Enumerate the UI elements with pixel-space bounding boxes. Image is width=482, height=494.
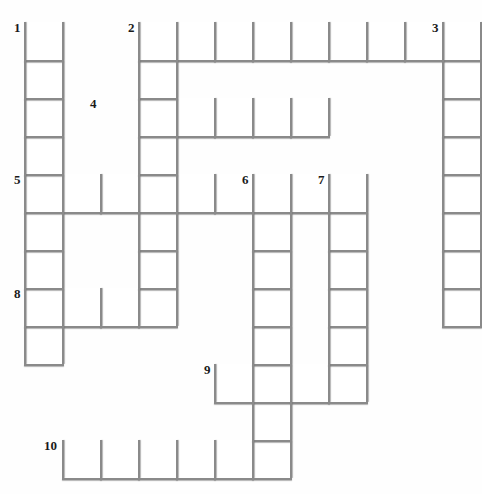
- crossword-cell[interactable]: [328, 22, 366, 60]
- crossword-cell[interactable]: [290, 22, 328, 60]
- crossword-grid[interactable]: 12345678910: [0, 0, 482, 494]
- cell-edge-bottom: [290, 402, 330, 404]
- crossword-cell[interactable]: [328, 250, 366, 288]
- crossword-cell[interactable]: [328, 212, 366, 250]
- crossword-cell[interactable]: [138, 174, 176, 212]
- crossword-cell[interactable]: [138, 60, 176, 98]
- cell-edge-bottom: [290, 212, 330, 214]
- crossword-cell[interactable]: [252, 364, 290, 402]
- cell-edge-right: [252, 364, 254, 402]
- crossword-cell[interactable]: [138, 136, 176, 174]
- crossword-cell[interactable]: [100, 174, 138, 212]
- crossword-cell[interactable]: [176, 174, 214, 212]
- crossword-cell[interactable]: [442, 22, 480, 60]
- crossword-cell[interactable]: [138, 22, 176, 60]
- cell-edge-bottom: [24, 212, 64, 214]
- cell-edge-bottom: [290, 60, 330, 62]
- crossword-cell[interactable]: [252, 174, 290, 212]
- crossword-cell[interactable]: [100, 288, 138, 326]
- cell-edge-right: [138, 440, 140, 478]
- cell-edge-bottom: [100, 212, 140, 214]
- crossword-cell[interactable]: [24, 250, 62, 288]
- cell-edge-left: [328, 250, 330, 288]
- crossword-cell[interactable]: [138, 250, 176, 288]
- crossword-cell[interactable]: [290, 98, 328, 136]
- clue-number-9: 9: [204, 363, 211, 376]
- cell-edge-right: [100, 440, 102, 478]
- crossword-cell[interactable]: [442, 60, 480, 98]
- cell-edge-right: [100, 174, 102, 212]
- crossword-cell[interactable]: [100, 440, 138, 478]
- cell-edge-left: [328, 288, 330, 326]
- crossword-cell[interactable]: [176, 22, 214, 60]
- cell-edge-right: [176, 288, 178, 326]
- crossword-cell[interactable]: [62, 440, 100, 478]
- crossword-cell[interactable]: [442, 250, 480, 288]
- cell-edge-left: [138, 212, 140, 250]
- crossword-cell[interactable]: [328, 364, 366, 402]
- cell-edge-right: [214, 174, 216, 212]
- clue-number-6: 6: [242, 173, 249, 186]
- crossword-cell[interactable]: [252, 402, 290, 440]
- cell-edge-left: [442, 98, 444, 136]
- crossword-cell[interactable]: [252, 98, 290, 136]
- crossword-cell[interactable]: [328, 326, 366, 364]
- cell-edge-left: [138, 22, 140, 60]
- cell-edge-bottom: [214, 212, 254, 214]
- cell-edge-bottom: [328, 326, 368, 328]
- crossword-cell[interactable]: [24, 98, 62, 136]
- crossword-cell[interactable]: [24, 174, 62, 212]
- crossword-cell[interactable]: [176, 440, 214, 478]
- cell-edge-bottom: [138, 326, 178, 328]
- crossword-cell[interactable]: [442, 288, 480, 326]
- cell-edge-bottom: [176, 136, 216, 138]
- crossword-cell[interactable]: [252, 212, 290, 250]
- cell-edge-bottom: [24, 364, 64, 366]
- cell-edge-bottom: [442, 212, 482, 214]
- crossword-cell[interactable]: [252, 250, 290, 288]
- cell-edge-right: [214, 440, 216, 478]
- crossword-cell[interactable]: [24, 326, 62, 364]
- cell-edge-bottom: [214, 60, 254, 62]
- cell-edge-bottom: [214, 402, 254, 404]
- crossword-cell[interactable]: [252, 326, 290, 364]
- crossword-cell[interactable]: [252, 288, 290, 326]
- crossword-cell[interactable]: [214, 440, 252, 478]
- crossword-cell[interactable]: [442, 136, 480, 174]
- crossword-cell[interactable]: [214, 22, 252, 60]
- crossword-cell[interactable]: [252, 440, 290, 478]
- crossword-cell[interactable]: [62, 174, 100, 212]
- crossword-cell[interactable]: [214, 98, 252, 136]
- crossword-cell[interactable]: [290, 364, 328, 402]
- crossword-cell[interactable]: [24, 212, 62, 250]
- crossword-cell[interactable]: [24, 136, 62, 174]
- crossword-cell[interactable]: [328, 174, 366, 212]
- crossword-cell[interactable]: [442, 174, 480, 212]
- cell-edge-bottom: [24, 98, 64, 100]
- cell-edge-left: [442, 174, 444, 212]
- crossword-cell[interactable]: [138, 440, 176, 478]
- cell-edge-bottom: [442, 98, 482, 100]
- crossword-cell[interactable]: [176, 98, 214, 136]
- crossword-cell[interactable]: [24, 60, 62, 98]
- crossword-cell[interactable]: [62, 288, 100, 326]
- crossword-cell[interactable]: [442, 212, 480, 250]
- cell-edge-bottom: [328, 250, 368, 252]
- crossword-cell[interactable]: [24, 288, 62, 326]
- crossword-cell[interactable]: [366, 22, 404, 60]
- crossword-cell[interactable]: [328, 288, 366, 326]
- cell-edge-left: [24, 250, 26, 288]
- cell-edge-bottom: [252, 136, 292, 138]
- cell-edge-right: [366, 250, 368, 288]
- cell-edge-left: [252, 250, 254, 288]
- cell-edge-right: [62, 288, 64, 326]
- cell-edge-bottom: [252, 60, 292, 62]
- crossword-cell[interactable]: [214, 364, 252, 402]
- cell-edge-right: [62, 326, 64, 364]
- crossword-cell[interactable]: [138, 212, 176, 250]
- crossword-cell[interactable]: [252, 22, 290, 60]
- crossword-cell[interactable]: [138, 288, 176, 326]
- crossword-cell[interactable]: [138, 98, 176, 136]
- crossword-cell[interactable]: [442, 98, 480, 136]
- crossword-cell[interactable]: [24, 22, 62, 60]
